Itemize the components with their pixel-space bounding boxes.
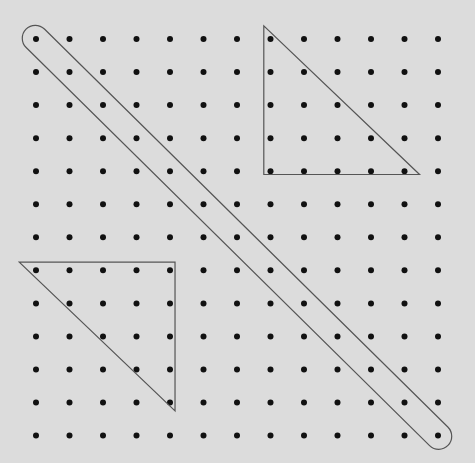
grid-dot xyxy=(167,367,173,373)
grid-dot xyxy=(33,201,39,207)
grid-dot xyxy=(268,433,274,439)
grid-dot xyxy=(201,168,207,174)
grid-dot xyxy=(100,333,106,339)
grid-dot xyxy=(67,433,73,439)
grid-dot xyxy=(402,69,408,75)
grid-dot xyxy=(402,433,408,439)
grid-dot xyxy=(435,333,441,339)
grid-dot xyxy=(234,400,240,406)
grid-dot xyxy=(234,433,240,439)
grid-dot xyxy=(67,300,73,306)
grid-dot xyxy=(33,300,39,306)
grid-dot xyxy=(335,367,341,373)
grid-dot xyxy=(335,333,341,339)
grid-dot xyxy=(301,333,307,339)
grid-dot xyxy=(67,267,73,273)
grid-dot xyxy=(335,201,341,207)
grid-dot xyxy=(201,300,207,306)
grid-dot xyxy=(134,36,140,42)
grid-dot xyxy=(67,102,73,108)
grid-dot xyxy=(167,333,173,339)
grid-dot xyxy=(134,400,140,406)
grid-dot xyxy=(301,234,307,240)
grid-dot xyxy=(435,135,441,141)
grid-dot xyxy=(268,367,274,373)
grid-dot xyxy=(134,267,140,273)
grid-dot xyxy=(368,267,374,273)
grid-dot xyxy=(301,201,307,207)
grid-dot xyxy=(301,300,307,306)
grid-dot xyxy=(301,102,307,108)
grid-dot xyxy=(134,433,140,439)
grid-dot xyxy=(335,36,341,42)
grid-dot xyxy=(435,433,441,439)
grid-dot xyxy=(234,69,240,75)
grid-dot xyxy=(268,102,274,108)
grid-dot xyxy=(368,102,374,108)
grid-dot xyxy=(268,201,274,207)
grid-dot xyxy=(67,69,73,75)
grid-dot xyxy=(268,36,274,42)
grid-dot xyxy=(67,400,73,406)
grid-dot xyxy=(100,69,106,75)
grid-dot xyxy=(134,333,140,339)
grid-dot xyxy=(100,102,106,108)
grid-dot xyxy=(402,36,408,42)
grid-dot xyxy=(435,400,441,406)
grid-dot xyxy=(33,433,39,439)
grid-dot xyxy=(33,333,39,339)
grid-dot xyxy=(402,102,408,108)
grid-dot xyxy=(167,234,173,240)
grid-dot xyxy=(67,135,73,141)
grid-dot xyxy=(301,367,307,373)
grid-dot xyxy=(402,234,408,240)
grid-dot xyxy=(335,168,341,174)
grid-dot xyxy=(301,36,307,42)
grid-dot xyxy=(335,69,341,75)
grid-dot xyxy=(435,36,441,42)
grid-dot xyxy=(402,333,408,339)
grid-dot xyxy=(167,201,173,207)
grid-dot xyxy=(33,102,39,108)
grid-dot xyxy=(402,201,408,207)
grid-dot xyxy=(234,135,240,141)
grid-dot xyxy=(368,400,374,406)
grid-dot xyxy=(67,36,73,42)
grid-dot xyxy=(100,367,106,373)
grid-dot xyxy=(335,400,341,406)
grid-dot xyxy=(234,201,240,207)
grid-dot xyxy=(67,333,73,339)
grid-dot xyxy=(301,69,307,75)
grid-dot xyxy=(167,433,173,439)
grid-dot xyxy=(402,168,408,174)
grid-dot xyxy=(335,102,341,108)
grid-dot xyxy=(100,135,106,141)
grid-dot xyxy=(201,201,207,207)
grid-dot xyxy=(134,69,140,75)
grid-dot xyxy=(301,400,307,406)
grid-dot xyxy=(268,69,274,75)
grid-dot xyxy=(268,400,274,406)
grid-dot xyxy=(301,267,307,273)
grid-dot xyxy=(402,367,408,373)
grid-dot xyxy=(368,36,374,42)
grid-dot xyxy=(134,234,140,240)
grid-dot xyxy=(268,234,274,240)
grid-dot xyxy=(234,36,240,42)
grid-dot xyxy=(435,69,441,75)
grid-dot xyxy=(67,201,73,207)
grid-dot xyxy=(368,433,374,439)
grid-dot xyxy=(201,36,207,42)
grid-dot xyxy=(100,36,106,42)
grid-dot xyxy=(33,367,39,373)
grid-dot xyxy=(402,300,408,306)
grid-dot xyxy=(100,168,106,174)
grid-dot xyxy=(33,168,39,174)
grid-dot xyxy=(201,135,207,141)
grid-dot xyxy=(335,234,341,240)
grid-dot xyxy=(234,367,240,373)
grid-dot xyxy=(268,300,274,306)
grid-dot xyxy=(201,102,207,108)
grid-dot xyxy=(33,135,39,141)
grid-dot xyxy=(201,367,207,373)
